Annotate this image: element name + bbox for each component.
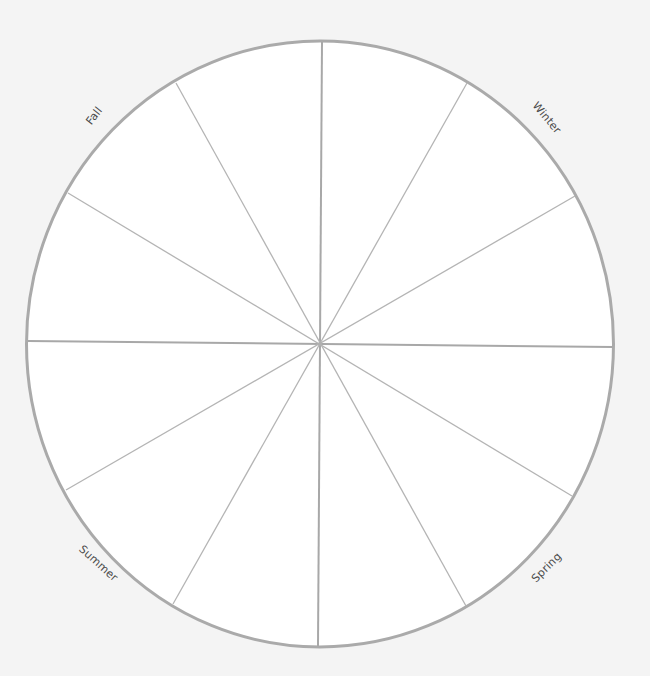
label-winter: Winter bbox=[530, 99, 564, 136]
seasonal-wheel-page: Fall Winter Summer Spring bbox=[0, 0, 650, 676]
wheel-center bbox=[318, 342, 322, 346]
seasonal-wheel-diagram: Fall Winter Summer Spring bbox=[0, 0, 650, 676]
label-spring: Spring bbox=[529, 550, 564, 585]
label-fall: Fall bbox=[83, 104, 105, 127]
